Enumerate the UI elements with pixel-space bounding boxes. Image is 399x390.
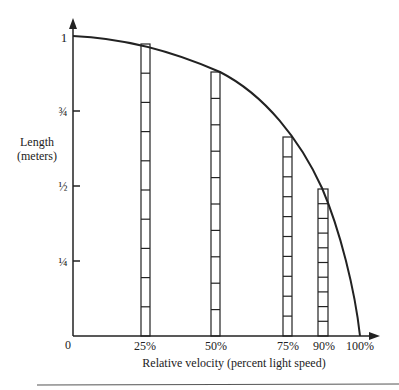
y-tick-1: 1: [61, 30, 68, 45]
y-axis-label-line2: (meters): [17, 149, 57, 163]
ruler-50: [211, 72, 220, 336]
ruler-75: [283, 137, 292, 336]
length-contraction-diagram: 1 ¾ ½ ¼ 0 Length (meters) 25% 50% 75% 90…: [0, 0, 399, 390]
y-ticks: [73, 111, 80, 261]
ruler-25: [141, 44, 150, 336]
y-tick-3-4: ¾: [59, 105, 68, 119]
x-tick-25: 25%: [134, 339, 156, 353]
y-tick-0: 0: [65, 338, 71, 352]
x-tick-90: 90%: [313, 339, 335, 353]
y-tick-1-4: ¼: [59, 255, 68, 269]
y-axis-label-line1: Length: [20, 135, 54, 149]
x-axis-label: Relative velocity (percent light speed): [142, 356, 325, 370]
x-tick-50: 50%: [205, 339, 227, 353]
x-tick-100: 100%: [346, 339, 374, 353]
ruler-90: [318, 189, 328, 336]
x-tick-75: 75%: [277, 339, 299, 353]
bottom-rule: [37, 384, 399, 385]
y-axis-arrow-icon: [69, 18, 77, 29]
contraction-curve: [73, 36, 360, 336]
y-tick-1-2: ½: [59, 180, 68, 194]
